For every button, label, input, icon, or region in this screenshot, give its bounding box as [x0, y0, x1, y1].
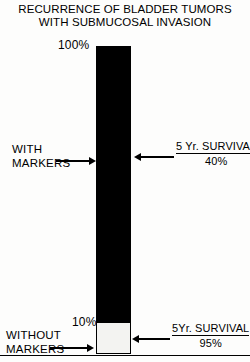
annotation-survival-95-value: 95%: [172, 336, 249, 350]
bladder-tumor-recurrence-figure: RECURRENCE OF BLADDER TUMORS WITH SUBMUC…: [0, 0, 250, 362]
figure-title-line-1: RECURRENCE OF BLADDER TUMORS: [0, 3, 250, 16]
annotation-survival-40-title: 5 Yr. SURVIVAL: [176, 140, 250, 154]
arrow-right-with-markers-icon: [56, 160, 90, 162]
figure-title: RECURRENCE OF BLADDER TUMORS WITH SUBMUC…: [0, 3, 250, 29]
annotation-with-markers: WITH MARKERS: [12, 142, 70, 170]
annotation-survival-40: 5 Yr. SURVIVAL 40%: [176, 140, 250, 168]
annotation-with-markers-line-1: WITH: [12, 143, 42, 155]
annotation-without-markers: WITHOUT MARKERS: [6, 328, 64, 356]
stacked-bar: [96, 46, 131, 354]
axis-label-split: 10%: [72, 315, 97, 329]
bar-segment-without-markers: [96, 323, 131, 354]
annotation-without-markers-line-1: WITHOUT: [6, 329, 61, 341]
annotation-survival-95: 5Yr. SURVIVAL 95%: [172, 322, 249, 350]
arrow-left-survival-40-icon: [140, 156, 174, 158]
baseline-rule: [0, 355, 250, 356]
annotation-with-markers-line-2: MARKERS: [12, 157, 70, 169]
annotation-survival-95-title: 5Yr. SURVIVAL: [172, 322, 249, 336]
figure-title-line-2: WITH SUBMUCOSAL INVASION: [0, 16, 250, 29]
arrow-right-without-markers-icon: [50, 347, 88, 349]
annotation-survival-40-value: 40%: [176, 154, 250, 168]
arrow-left-survival-95-icon: [138, 338, 170, 340]
axis-label-top: 100%: [58, 38, 90, 52]
bar-segment-with-markers: [96, 46, 131, 323]
annotation-without-markers-line-2: MARKERS: [6, 343, 64, 355]
